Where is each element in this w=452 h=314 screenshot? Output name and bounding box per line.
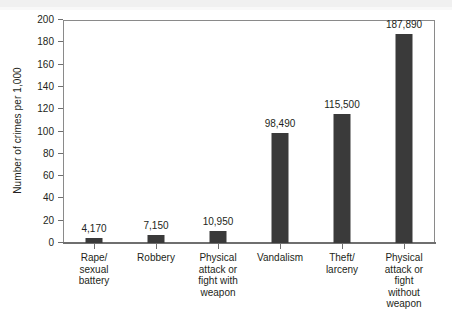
x-axis-label: Theft/larceny: [309, 252, 375, 275]
y-axis-tick-label: 120: [37, 103, 54, 115]
bar[interactable]: [272, 133, 289, 243]
bar-value-label: 7,150: [143, 220, 168, 232]
y-axis-tick: 80: [0, 148, 63, 160]
bar-group: 7,150: [125, 20, 187, 243]
y-axis-tick-label: 100: [37, 126, 54, 138]
y-axis-tick-label: 80: [43, 148, 54, 160]
y-axis-tick: 200: [0, 14, 63, 26]
x-axis-label-line: weapon: [185, 287, 251, 299]
x-axis-label-line: larceny: [309, 264, 375, 276]
y-axis-tick: 180: [0, 36, 63, 48]
y-axis-tick: 20: [0, 215, 63, 227]
x-axis-tick-mark: [156, 244, 157, 249]
x-axis-label: Vandalism: [247, 252, 313, 264]
x-axis-label-line: Physical: [185, 252, 251, 264]
bar[interactable]: [148, 235, 165, 243]
bar-chart-figure: Number of crimes per 1,000 0204060801001…: [0, 0, 452, 314]
x-axis-label-line: attack or: [371, 264, 437, 276]
bar-value-label: 98,490: [265, 118, 296, 130]
x-axis-label: Rape/sexualbattery: [61, 252, 127, 287]
y-axis-tick-label: 200: [37, 14, 54, 26]
y-axis-tick: 40: [0, 192, 63, 204]
bar-value-label: 115,500: [324, 99, 359, 111]
x-axis-label-line: without: [371, 287, 437, 299]
scan-artifact-band-lower: [0, 7, 452, 10]
y-axis-tick: 0: [0, 237, 63, 249]
y-axis-tick: 120: [0, 103, 63, 115]
bar-value-label: 10,950: [203, 216, 234, 228]
y-axis-tick-label: 0: [48, 237, 54, 249]
y-axis-tick-label: 40: [43, 192, 54, 204]
x-axis-label-line: weapon: [371, 298, 437, 310]
x-axis-tick-mark: [342, 244, 343, 249]
bar-value-label: 187,890: [386, 19, 422, 31]
x-axis-label: Robbery: [123, 252, 189, 264]
y-axis-tick: 140: [0, 81, 63, 93]
x-axis-label-line: Rape/: [61, 252, 127, 264]
bar-group: 4,170: [63, 20, 125, 243]
y-axis-tick-label: 60: [43, 170, 54, 182]
x-axis-label-line: sexual: [61, 264, 127, 276]
bar-value-label: 4,170: [81, 223, 106, 235]
x-axis-label-line: Robbery: [123, 252, 189, 264]
x-axis-label: Physicalattack orfight withweapon: [185, 252, 251, 298]
x-axis-label: Physicalattack orfightwithoutweapon: [371, 252, 437, 310]
bars-layer: 4,1707,15010,95098,490115,500187,890: [63, 20, 435, 243]
x-axis-label-line: fight: [371, 275, 437, 287]
x-axis-label-line: attack or: [185, 264, 251, 276]
x-axis-label-line: Theft/: [309, 252, 375, 264]
y-axis-tick-label: 140: [37, 81, 54, 93]
bar[interactable]: [210, 231, 227, 243]
x-axis-tick-mark: [280, 244, 281, 249]
scan-artifact-band: [0, 0, 452, 7]
bar-group: 98,490: [249, 20, 311, 243]
y-axis-tick-label: 20: [43, 215, 54, 227]
x-axis-tick-mark: [218, 244, 219, 249]
y-axis-tick: 60: [0, 170, 63, 182]
bar-group: 10,950: [187, 20, 249, 243]
x-axis-tick-mark: [404, 244, 405, 249]
y-axis-tick-label: 180: [37, 36, 54, 48]
x-axis-label-line: Vandalism: [247, 252, 313, 264]
x-axis-label-line: battery: [61, 275, 127, 287]
y-axis-tick: 100: [0, 126, 63, 138]
bar-group: 187,890: [373, 20, 435, 243]
bar[interactable]: [86, 238, 103, 243]
bar[interactable]: [334, 114, 351, 243]
bar[interactable]: [396, 34, 413, 243]
y-axis-tick-label: 160: [37, 59, 54, 71]
x-axis-tick-mark: [94, 244, 95, 249]
bar-group: 115,500: [311, 20, 373, 243]
x-axis-label-line: Physical: [371, 252, 437, 264]
y-axis-tick: 160: [0, 59, 63, 71]
x-axis-label-line: fight with: [185, 275, 251, 287]
